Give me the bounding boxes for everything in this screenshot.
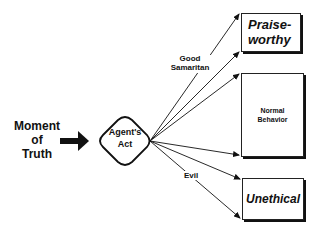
decision-line: Act	[100, 139, 150, 151]
good-samaritan-label: Good Samaritan	[165, 55, 215, 73]
moment-of-truth-label: Moment of Truth	[6, 120, 68, 161]
outcome-line: Praise-	[248, 18, 291, 32]
outcome-line: Behavior	[258, 115, 288, 124]
start-line: Moment	[6, 120, 68, 134]
outcome-normal-behavior: Normal Behavior	[241, 73, 304, 157]
outcome-line: Normal	[258, 106, 288, 115]
start-line: Truth	[6, 148, 68, 162]
decision-line: Agent's	[100, 127, 150, 139]
outcome-unethical: Unethical	[242, 178, 304, 220]
evil-label: Evil	[181, 171, 201, 180]
outcome-line: Unethical	[246, 192, 300, 206]
branch-arrows	[150, 14, 240, 218]
outcome-praiseworthy: Praise- worthy	[241, 13, 301, 52]
start-line: of	[6, 134, 68, 148]
agents-act-label: Agent's Act	[100, 127, 150, 150]
outcome-line: worthy	[248, 33, 291, 47]
branch-label-line: Samaritan	[165, 64, 215, 73]
